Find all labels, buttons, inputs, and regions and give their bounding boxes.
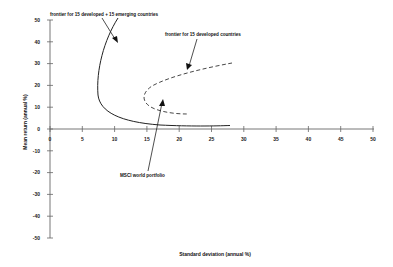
x-tick-label: 45: [338, 136, 344, 142]
efficient-frontier-chart: 50 40 30 20 10 0 -10 -20 -30 -40 -50 0 5…: [0, 0, 393, 267]
y-tick-label: 40: [34, 39, 40, 45]
y-tick-label: -30: [33, 191, 40, 197]
arrowhead-icon: [112, 36, 118, 43]
annotation-developed-label: frontier for 15 developed countries: [165, 32, 241, 37]
y-axis-title: Mean return (annual %): [22, 94, 28, 150]
x-tick-label: 25: [209, 136, 215, 142]
x-tick-label: 0: [49, 136, 52, 142]
x-tick-label: 5: [81, 136, 84, 142]
y-tick-label: -10: [33, 148, 40, 154]
frontier-developed-line: [144, 63, 232, 114]
x-tick-label: 20: [176, 136, 182, 142]
x-tick-labels: 0 5 10 15 20 25 30 35 40 45 50: [49, 136, 376, 142]
y-tick-label: 50: [34, 17, 40, 23]
x-tick-label: 15: [144, 136, 150, 142]
annotation-msci-label: MSCI world portfolio: [120, 173, 165, 178]
x-tick-label: 10: [112, 136, 118, 142]
x-tick-label: 35: [273, 136, 279, 142]
annotation-developed-arrow: [189, 39, 197, 66]
y-tick-labels: 50 40 30 20 10 0 -10 -20 -30 -40 -50: [33, 17, 40, 241]
y-tick-label: -20: [33, 169, 40, 175]
y-tick-label: 30: [34, 60, 40, 66]
x-tick-label: 40: [306, 136, 312, 142]
y-tick-label: 20: [34, 82, 40, 88]
y-tick-label: 0: [37, 126, 40, 132]
arrowhead-icon: [159, 99, 165, 106]
annotation-emerging-label: frontier for 15 developed + 15 emerging …: [50, 12, 159, 17]
y-tick-label: -50: [33, 235, 40, 241]
x-tick-label: 30: [241, 136, 247, 142]
x-tick-label: 50: [370, 136, 376, 142]
annotation-msci-arrow: [148, 103, 162, 171]
y-tick-label: 10: [34, 104, 40, 110]
arrowhead-icon: [186, 63, 192, 70]
x-axis-title: Standard deviation (annual %): [179, 251, 251, 257]
y-tick-label: -40: [33, 213, 40, 219]
